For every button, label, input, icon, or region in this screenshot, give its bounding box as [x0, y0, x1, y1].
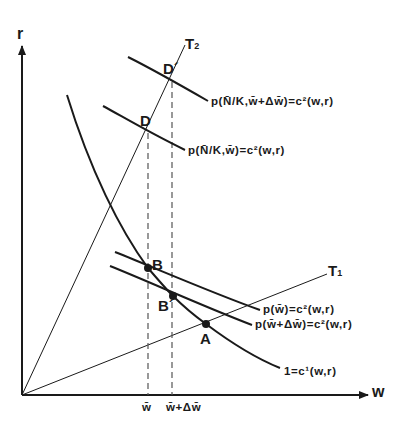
x-axis-label: w — [372, 384, 384, 400]
curve-p-wbar-label: p(w̄)=c²(w,r) — [263, 304, 335, 316]
diagram-canvas: r w T2 T1 D´ D B B´ A p(N̄/K,w̄+Δw̄)=c²(… — [0, 0, 400, 437]
curve-p-wbar-dw-label: p(w̄+Δw̄)=c²(w,r) — [255, 319, 352, 331]
tick-wbar-dw-label: w̄+Δw̄ — [166, 402, 201, 414]
diagram-svg — [0, 0, 400, 437]
point-b-label: B — [152, 257, 163, 272]
point-a — [202, 320, 210, 328]
curve-c1-label: 1=c¹(w,r) — [284, 366, 337, 378]
point-a-label: A — [200, 331, 211, 346]
y-axis-label: r — [17, 26, 23, 42]
point-b-prime-label: B´ — [158, 298, 174, 313]
curve-p-nk-wbar-dw-label: p(N̄/K,w̄+Δw̄)=c²(w,r) — [211, 96, 334, 108]
point-b — [144, 264, 152, 272]
curve-p-wbar — [115, 252, 260, 310]
point-d-prime-label: D´ — [163, 61, 179, 76]
curve-p-nk-wbar-label: p(N̄/K,w̄)=c²(w,r) — [188, 145, 285, 157]
tick-wbar-label: w̄ — [142, 402, 152, 414]
ray-t2-label: T2 — [185, 36, 199, 51]
curve-p-wbar-dw — [110, 266, 252, 325]
curve-c1 — [67, 95, 280, 368]
ray-t1-label: T1 — [328, 263, 342, 278]
ray-t2 — [22, 45, 185, 395]
point-d-label: D — [140, 113, 151, 128]
